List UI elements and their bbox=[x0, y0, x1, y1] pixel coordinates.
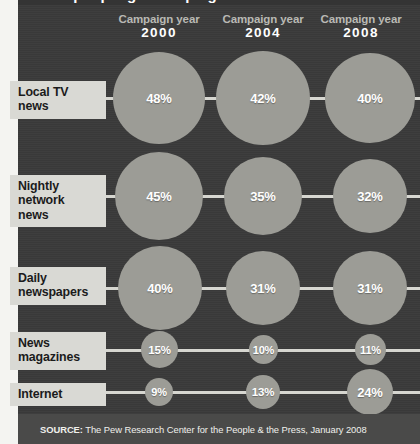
bubble-local-tv-2000: 48% bbox=[113, 52, 205, 144]
bubble-value: 40% bbox=[357, 91, 382, 106]
row-label-nightly-network-news: Nightly network news bbox=[10, 175, 106, 227]
bubble-value: 31% bbox=[250, 281, 275, 296]
bubble-news-magazines-2008: 11% bbox=[355, 334, 386, 365]
bubble-value: 42% bbox=[250, 91, 275, 106]
bubble-value: 11% bbox=[360, 344, 381, 356]
source-line: SOURCE: The Pew Research Center for the … bbox=[18, 424, 367, 435]
bubble-value: 32% bbox=[357, 189, 382, 204]
bubble-value: 48% bbox=[146, 91, 171, 106]
bubble-daily-newspapers-2000: 40% bbox=[118, 246, 202, 330]
bubble-value: 13% bbox=[252, 386, 274, 398]
source-text: The Pew Research Center for the People &… bbox=[85, 424, 366, 435]
row-label-text: News magazines bbox=[18, 336, 80, 364]
chart-title-text: Where people get campaign news bbox=[22, 0, 269, 3]
bubble-value: 10% bbox=[253, 344, 274, 356]
bubble-local-tv-2004: 42% bbox=[216, 51, 310, 145]
row-label-text: Internet bbox=[18, 387, 62, 401]
bubble-nightly-network-2004: 35% bbox=[224, 157, 302, 235]
row-label-daily-newspapers: Daily newspapers bbox=[10, 267, 106, 305]
bubble-nightly-network-2000: 45% bbox=[115, 152, 203, 240]
bubble-value: 40% bbox=[147, 281, 172, 296]
row-label-local-tv-news: Local TV news bbox=[10, 81, 106, 119]
column-header-prefix: Campaign year bbox=[302, 13, 420, 25]
bubble-value: 9% bbox=[151, 386, 167, 398]
chart-title-cropped: Where people get campaign news bbox=[18, 0, 420, 5]
row-label-text: Nightly network news bbox=[18, 179, 64, 222]
source-bar: SOURCE: The Pew Research Center for the … bbox=[18, 414, 420, 444]
row-label-news-magazines: News magazines bbox=[10, 332, 106, 370]
bubble-internet-2008: 24% bbox=[347, 369, 393, 415]
bubble-local-tv-2008: 40% bbox=[325, 53, 415, 143]
bubble-daily-newspapers-2008: 31% bbox=[333, 251, 407, 325]
bubble-value: 31% bbox=[357, 281, 382, 296]
bubble-value: 15% bbox=[148, 344, 170, 356]
bubble-news-magazines-2000: 15% bbox=[141, 331, 178, 368]
bubble-internet-2000: 9% bbox=[145, 378, 173, 406]
infographic-chart: Where people get campaign news Campaign … bbox=[0, 0, 420, 444]
bubble-nightly-network-2008: 32% bbox=[333, 159, 407, 233]
bubble-internet-2004: 13% bbox=[246, 375, 280, 409]
bubble-value: 45% bbox=[146, 189, 171, 204]
bubble-value: 24% bbox=[357, 385, 382, 400]
bubble-news-magazines-2004: 10% bbox=[249, 335, 278, 364]
column-header-prefix: Campaign year bbox=[100, 13, 218, 25]
column-header-year: 2008 bbox=[302, 26, 420, 41]
bubble-value: 35% bbox=[250, 189, 275, 204]
row-label-text: Local TV news bbox=[18, 85, 68, 113]
column-header-year: 2000 bbox=[100, 26, 218, 41]
column-header-2008: Campaign year 2008 bbox=[302, 13, 420, 41]
row-label-internet: Internet bbox=[10, 383, 106, 406]
column-header-2000: Campaign year 2000 bbox=[100, 13, 218, 41]
bubble-daily-newspapers-2004: 31% bbox=[226, 251, 300, 325]
source-prefix: SOURCE: bbox=[40, 424, 83, 435]
row-label-text: Daily newspapers bbox=[18, 271, 88, 299]
